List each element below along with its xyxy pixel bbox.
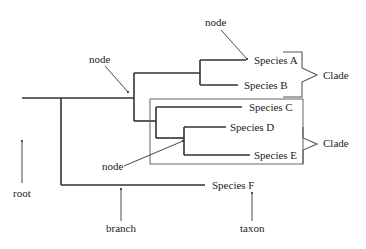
annotation-branch: branch — [106, 223, 136, 234]
taxon-label-d: Species D — [230, 122, 274, 133]
annotation-clade-bottom: Clade — [323, 138, 349, 149]
taxon-label-a: Species A — [254, 55, 298, 66]
annotation-root: root — [13, 188, 31, 199]
annotation-taxon: taxon — [240, 223, 264, 234]
annotation-arrows — [22, 30, 252, 221]
clade-bracket-bottom — [303, 127, 317, 164]
phylogenetic-tree — [0, 0, 366, 249]
tree-branches — [22, 60, 250, 185]
arrow-node-top — [221, 30, 247, 59]
taxon-label-b: Species B — [244, 80, 288, 91]
annotation-node-top: node — [205, 17, 226, 28]
annotation-clade-top: Clade — [323, 70, 349, 81]
arrow-node-mid — [105, 66, 128, 92]
taxon-label-c: Species C — [249, 102, 293, 113]
arrow-node-low — [124, 141, 183, 166]
taxon-label-f: Species F — [212, 180, 254, 191]
taxon-label-e: Species E — [254, 150, 297, 161]
annotation-node-mid: node — [89, 54, 110, 65]
annotation-node-low: node — [102, 161, 123, 172]
